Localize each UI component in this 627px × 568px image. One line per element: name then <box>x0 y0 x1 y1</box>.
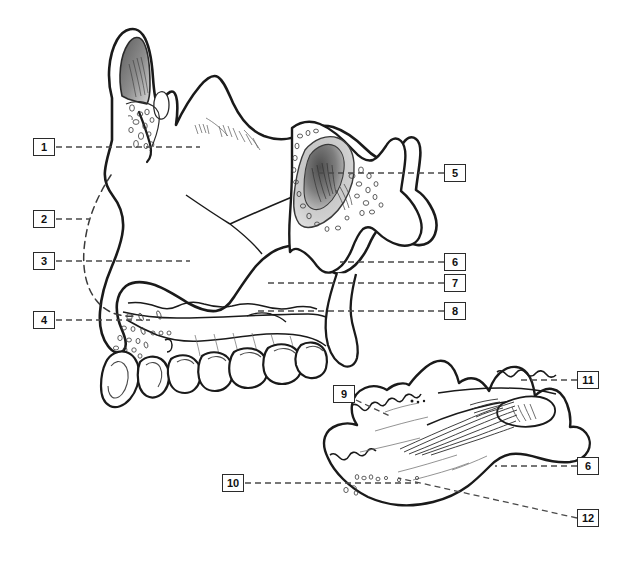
label-box-10[interactable]: 10 <box>222 474 244 492</box>
molar-3-tooth <box>295 343 327 379</box>
specimen-outline <box>324 361 590 505</box>
label-box-5[interactable]: 5 <box>444 164 466 182</box>
label-box-1[interactable]: 1 <box>33 138 55 156</box>
label-box-3[interactable]: 3 <box>33 252 55 270</box>
premolar-1-tooth <box>168 355 201 393</box>
label-box-6[interactable]: 6 <box>444 253 466 271</box>
ethmoid-air-cell <box>154 92 169 119</box>
label-box-8[interactable]: 8 <box>444 302 466 320</box>
palate-contour-lower <box>123 312 326 318</box>
lower-panel <box>324 361 590 505</box>
alveolar-process <box>127 320 326 346</box>
label-box-2[interactable]: 2 <box>33 210 55 228</box>
anatomy-figure: 1 2 3 4 5 6 7 8 9 10 11 12 6 <box>0 0 627 568</box>
label-box-7[interactable]: 7 <box>444 274 466 292</box>
upper-panel <box>84 29 437 407</box>
label-box-4[interactable]: 4 <box>33 311 55 329</box>
alveolar-tubercle <box>165 339 172 352</box>
molar-1-tooth <box>229 348 268 388</box>
anatomy-illustration <box>0 0 627 568</box>
incisor-tooth <box>101 351 139 407</box>
label-box-12[interactable]: 12 <box>577 509 599 527</box>
premolar-2-tooth <box>198 352 233 391</box>
label-box-6-lower[interactable]: 6 <box>577 457 599 475</box>
label-box-11[interactable]: 11 <box>577 371 599 389</box>
label-box-9[interactable]: 9 <box>333 385 355 403</box>
pterygoid-plate <box>326 273 358 367</box>
